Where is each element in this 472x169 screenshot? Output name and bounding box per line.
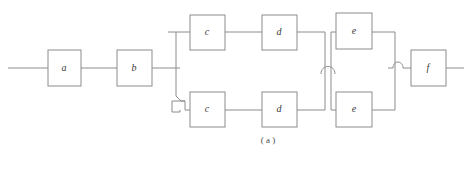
wire-jump-left-icon — [172, 101, 185, 112]
wire-jump-mid-icon — [321, 67, 335, 75]
block-b-label: b — [132, 62, 137, 73]
block-a-label: a — [62, 62, 67, 73]
figure-canvas: a b c d e c d e f ( a ) — [0, 0, 472, 169]
block-e-bottom-label: e — [352, 103, 357, 114]
block-e-top-label: e — [352, 25, 357, 36]
block-c-bottom-label: c — [205, 103, 210, 114]
block-diagram: a b c d e c d e f ( a ) — [0, 0, 472, 169]
wire-jump-left-tail — [176, 96, 185, 101]
block-c-top-label: c — [205, 26, 210, 37]
figure-caption: ( a ) — [261, 135, 276, 145]
